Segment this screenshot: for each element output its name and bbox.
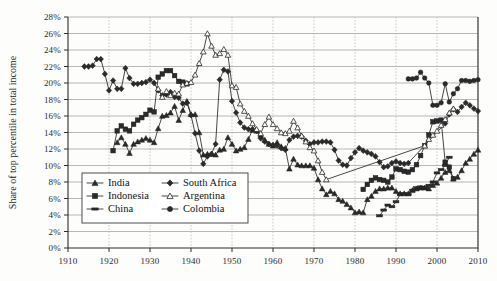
marker-diamond-filled (229, 98, 234, 104)
marker-circle-filled (435, 103, 440, 108)
marker-diamond-filled (98, 56, 103, 62)
marker-square-filled (418, 153, 423, 158)
marker-triangle-open (319, 169, 325, 174)
marker-triangle-filled (176, 117, 182, 122)
marker-triangle-filled (319, 186, 325, 191)
marker-triangle-filled (119, 135, 125, 140)
marker-diamond-filled (328, 140, 333, 146)
marker-triangle-open (225, 52, 231, 57)
marker-triangle-filled (459, 168, 465, 173)
marker-triangle-open (307, 145, 313, 150)
y-tick-label: 2% (49, 227, 62, 237)
marker-dash-filled (389, 206, 395, 208)
marker-square-filled (115, 129, 120, 134)
marker-square-filled (386, 180, 391, 185)
marker-triangle-open (164, 89, 170, 94)
y-tick-label: 18% (44, 95, 61, 105)
marker-diamond-filled (102, 71, 107, 77)
marker-triangle-filled (229, 141, 235, 146)
marker-triangle-open (221, 46, 227, 51)
marker-square-filled (410, 167, 415, 172)
marker-triangle-filled (291, 156, 297, 161)
marker-square-filled (127, 129, 132, 134)
marker-circle-filled (463, 78, 468, 83)
marker-dash-filled (92, 208, 98, 210)
x-tick-label: 1970 (305, 256, 324, 266)
series-argentina (155, 31, 456, 182)
marker-dash-filled (434, 172, 440, 174)
marker-dash-filled (410, 189, 416, 191)
y-tick-label: 12% (44, 144, 61, 154)
marker-circle-filled (167, 206, 172, 211)
y-tick-label: 20% (44, 78, 61, 88)
marker-diamond-filled (213, 141, 218, 147)
y-tick-label: 14% (44, 128, 61, 138)
y-tick-label: 0% (49, 243, 62, 253)
y-tick-label: 8% (49, 177, 62, 187)
marker-triangle-filled (336, 197, 342, 202)
marker-dash-filled (430, 181, 436, 183)
marker-diamond-filled (188, 112, 193, 118)
marker-circle-filled (447, 100, 452, 105)
marker-diamond-filled (123, 65, 128, 71)
marker-triangle-open (266, 114, 272, 119)
x-tick-label: 1920 (100, 256, 119, 266)
marker-triangle-open (209, 43, 215, 48)
y-axis-label: Share of top percentile in total income (7, 55, 18, 209)
marker-triangle-filled (475, 147, 481, 152)
x-tick-label: 1990 (387, 256, 406, 266)
marker-circle-filled (451, 91, 456, 96)
marker-diamond-filled (233, 110, 238, 116)
marker-dash-filled (446, 156, 452, 158)
y-axis-title: Share of top percentile in total income (7, 55, 18, 209)
legend-label: Indonesia (108, 190, 149, 201)
x-tick-label: 2010 (469, 256, 488, 266)
marker-dash-filled (393, 201, 399, 203)
marker-square-filled (451, 176, 456, 181)
x-tick-label: 1950 (223, 256, 242, 266)
marker-triangle-filled (172, 103, 178, 108)
marker-triangle-open (250, 121, 256, 126)
marker-circle-filled (476, 77, 481, 82)
marker-square-filled (111, 148, 116, 153)
y-tick-label: 26% (44, 29, 61, 39)
marker-circle-filled (427, 81, 432, 86)
marker-triangle-open (315, 158, 321, 163)
y-tick-label: 10% (44, 161, 61, 171)
marker-square-filled (390, 175, 395, 180)
marker-diamond-filled (332, 147, 337, 153)
marker-triangle-open (287, 128, 293, 133)
series-polyline (158, 34, 453, 180)
x-tick-label: 1980 (346, 256, 365, 266)
marker-square-filled (92, 193, 97, 198)
marker-diamond-filled (110, 78, 115, 84)
marker-triangle-open (237, 101, 243, 106)
marker-triangle-open (262, 122, 268, 127)
marker-circle-filled (472, 78, 477, 83)
marker-triangle-filled (225, 135, 231, 140)
marker-circle-filled (443, 82, 448, 87)
y-tick-label: 22% (44, 62, 61, 72)
marker-circle-filled (414, 76, 419, 81)
marker-triangle-filled (180, 108, 186, 113)
x-tick-label: 1940 (182, 256, 201, 266)
marker-diamond-filled (106, 88, 111, 94)
legend-label: China (108, 203, 133, 214)
marker-square-filled (152, 110, 157, 115)
marker-triangle-filled (242, 145, 248, 150)
y-axis-tick-labels: 0%2%4%6%8%10%12%14%16%18%20%22%24%26%28% (44, 12, 61, 253)
marker-dash-filled (377, 215, 383, 217)
marker-triangle-open (291, 118, 297, 123)
marker-triangle-filled (438, 175, 444, 180)
marker-triangle-open (196, 61, 202, 66)
marker-triangle-open (242, 108, 248, 113)
marker-diamond-filled (119, 86, 124, 92)
marker-circle-filled (410, 77, 415, 82)
marker-square-filled (172, 73, 177, 78)
marker-circle-filled (455, 86, 460, 91)
marker-dash-filled (438, 169, 444, 171)
marker-triangle-open (324, 177, 330, 182)
x-tick-label: 1930 (141, 256, 160, 266)
marker-dash-filled (381, 209, 387, 211)
chart-figure: 0%2%4%6%8%10%12%14%16%18%20%22%24%26%28%… (0, 0, 497, 281)
